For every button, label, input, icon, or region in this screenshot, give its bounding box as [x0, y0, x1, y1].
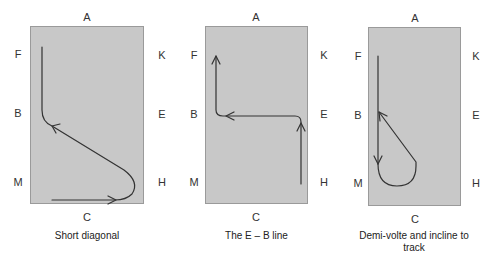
diagram-e-b-line: A F B M K E H C The E – B line	[160, 0, 330, 265]
riding-path	[160, 0, 330, 265]
caption: Demi-volte and incline to track	[350, 230, 478, 254]
riding-path	[320, 0, 492, 265]
diagram-demi-volte: A F B M K E H C Demi-volte and incline t…	[320, 0, 492, 265]
caption: The E – B line	[205, 230, 308, 242]
caption: Short diagonal	[30, 230, 144, 242]
diagram-short-diagonal: A F B M K E H C Short diagonal	[0, 0, 170, 265]
riding-path	[0, 0, 170, 265]
